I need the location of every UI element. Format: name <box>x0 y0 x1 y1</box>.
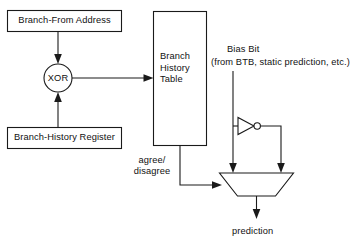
wire-bht-to-mux-select <box>180 146 214 186</box>
diagram-svg <box>0 0 364 245</box>
branch-history-table-label-line1: Branch <box>160 51 190 61</box>
branch-history-table-label-line3: Table <box>160 74 183 84</box>
bias-bit-title-label: Bias Bit <box>227 44 259 54</box>
wire-inverter-to-mux <box>260 126 281 165</box>
arrowhead-inverter-to-mux <box>277 163 285 173</box>
arrowhead-address-to-xor <box>54 54 62 64</box>
xor-gate-label: XOR <box>44 68 72 88</box>
diagram-canvas: Branch-From Address Branch-History Regis… <box>0 0 364 245</box>
arrowhead-bias-bit-to-mux <box>229 163 237 173</box>
branch-from-address-label: Branch-From Address <box>7 10 122 31</box>
agree-disagree-label-line2: disagree <box>128 166 176 176</box>
inverter-bubble-icon <box>254 123 260 129</box>
bias-bit-source-label: (from BTB, static prediction, etc.) <box>211 57 350 67</box>
prediction-label: prediction <box>232 226 273 236</box>
inverter-triangle <box>238 118 254 135</box>
arrowhead-xor-to-bht <box>144 74 154 82</box>
arrowhead-register-to-xor <box>54 92 62 102</box>
agree-disagree-label-line1: agree/ <box>128 155 176 165</box>
branch-history-table-label-line2: History <box>160 63 190 73</box>
arrowhead-mux-to-prediction <box>253 209 261 219</box>
branch-history-register-label: Branch-History Register <box>7 127 122 148</box>
multiplexer-trapezoid <box>220 173 294 196</box>
arrowhead-agree-disagree-to-mux <box>212 181 222 189</box>
